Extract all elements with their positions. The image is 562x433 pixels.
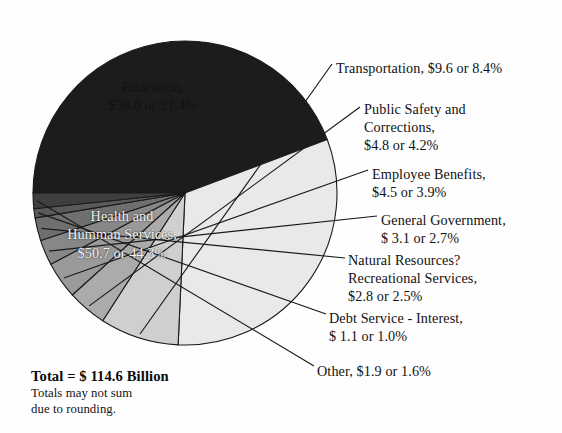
health-label-line-1: Health and <box>22 207 222 225</box>
public-safety-label-line-3: $4.8 or 4.2% <box>364 137 466 155</box>
callout-label-public-safety-and-corrections: Public Safety andCorrections,$4.8 or 4.2… <box>364 101 466 155</box>
slice-label-education: Education,$36.0 or 31.4% <box>58 78 248 115</box>
callout-label-employee-benefits: Employee Benefits,$4.5 or 3.9% <box>372 166 486 202</box>
employee-benefits-label-line-2: $4.5 or 3.9% <box>372 184 486 202</box>
total-block: Total = $ 114.6 Billion Totals may not s… <box>31 368 261 418</box>
employee-benefits-label-line-1: Employee Benefits, <box>372 166 486 184</box>
transportation-label-line-1: Transportation, $9.6 or 8.4% <box>336 60 502 78</box>
callout-label-transportation: Transportation, $9.6 or 8.4% <box>336 60 502 78</box>
other-label-line-1: Other, $1.9 or 1.6% <box>317 363 431 381</box>
callout-label-general-government: General Government,$ 3.1 or 2.7% <box>381 212 506 248</box>
general-government-label-line-2: $ 3.1 or 2.7% <box>381 230 506 248</box>
health-label-line-2: Humman Services, <box>22 225 222 243</box>
education-label-line-2: $36.0 or 31.4% <box>58 96 248 114</box>
natural-resources-label-line-1: Natural Resources? <box>348 252 477 270</box>
debt-service-label-line-1: Debt Service - Interest, <box>329 310 463 328</box>
public-safety-label-line-1: Public Safety and <box>364 101 466 119</box>
callout-label-debt-service-interest: Debt Service - Interest,$ 1.1 or 1.0% <box>329 310 463 346</box>
rounding-note-line-1: Totals may not sum <box>31 386 261 402</box>
health-label-line-3: $50.7 or 44.3% <box>22 244 222 262</box>
total-headline: Total = $ 114.6 Billion <box>31 368 261 385</box>
natural-resources-label-line-2: Recreational Services, <box>348 270 477 288</box>
pie-chart-figure: Education,$36.0 or 31.4% Health andHumma… <box>0 0 562 433</box>
slice-label-health-and-human-services: Health andHumman Services,$50.7 or 44.3% <box>22 207 222 262</box>
callout-label-natural-resources-recreational-services: Natural Resources?Recreational Services,… <box>348 252 477 306</box>
natural-resources-label-line-3: $2.8 or 2.5% <box>348 288 477 306</box>
debt-service-label-line-2: $ 1.1 or 1.0% <box>329 328 463 346</box>
callout-label-other: Other, $1.9 or 1.6% <box>317 363 431 381</box>
rounding-note-line-2: due to rounding. <box>31 402 261 418</box>
education-label-line-1: Education, <box>58 78 248 96</box>
public-safety-label-line-2: Corrections, <box>364 119 466 137</box>
general-government-label-line-1: General Government, <box>381 212 506 230</box>
